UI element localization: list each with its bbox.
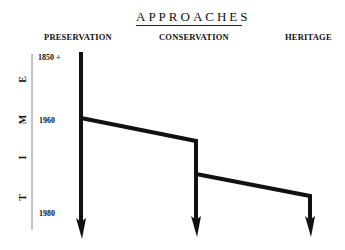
heritage-branch: [196, 174, 310, 221]
conservation-branch: [81, 118, 196, 221]
diagram-lines: [0, 0, 345, 250]
